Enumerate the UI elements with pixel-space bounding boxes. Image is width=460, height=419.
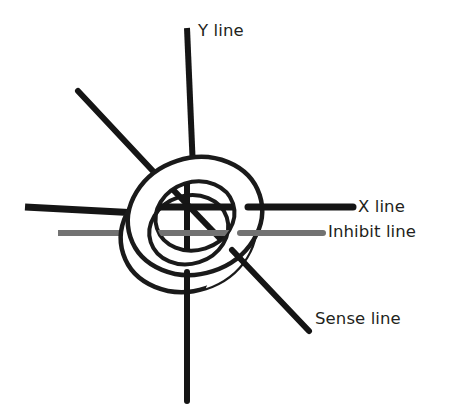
sense-line-front-segment <box>232 250 309 331</box>
label-y-line: Y line <box>198 23 244 40</box>
core-memory-diagram: Y line X line Inhibit line Sense line <box>0 0 460 419</box>
ferrite-core-torus <box>101 140 282 309</box>
label-inhibit-line: Inhibit line <box>328 224 416 241</box>
label-sense-line: Sense line <box>315 311 401 328</box>
label-x-line: X line <box>358 199 405 216</box>
